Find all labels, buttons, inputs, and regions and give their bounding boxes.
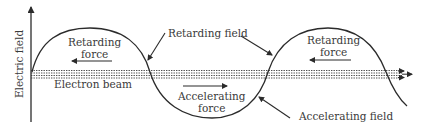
- retarding-force-label-2: Retarding force: [307, 34, 360, 58]
- label-line: force: [68, 48, 121, 60]
- retarding-field-label: Retarding field: [168, 27, 248, 39]
- accelerating-field-pointer: [259, 97, 290, 118]
- label-line: force: [178, 102, 245, 114]
- electric-field-diagram: Electric field Retarding force Electron …: [0, 0, 432, 132]
- accelerating-force-label: Accelerating force: [178, 90, 245, 114]
- retarding-field-pointer-left: [148, 33, 165, 60]
- accelerating-field-label: Accelerating field: [299, 110, 393, 122]
- electron-beam: [31, 71, 402, 79]
- electron-beam-label: Electron beam: [54, 78, 132, 90]
- label-line: Retarding: [68, 36, 121, 48]
- label-line: Retarding: [307, 34, 360, 46]
- label-line: force: [307, 46, 360, 58]
- retarding-force-label-1: Retarding force: [68, 36, 121, 60]
- y-axis-label: Electric field: [13, 30, 25, 98]
- electron-beam-arrowheads: [398, 71, 412, 78]
- label-line: Accelerating: [178, 90, 245, 102]
